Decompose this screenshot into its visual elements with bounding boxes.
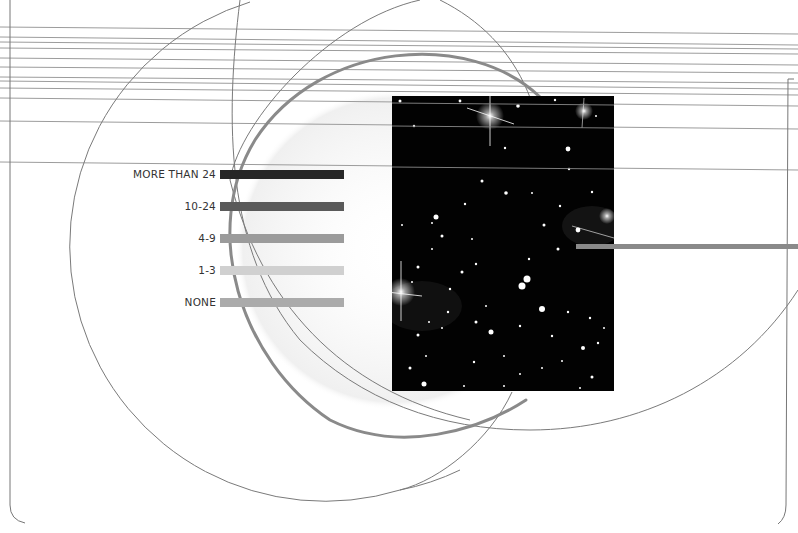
right-frame-line bbox=[778, 79, 794, 524]
bright-star bbox=[575, 98, 593, 128]
left-frame-line bbox=[10, 0, 25, 523]
bright-star bbox=[562, 206, 614, 246]
bright-star bbox=[392, 261, 462, 331]
pointer-bar bbox=[576, 244, 798, 249]
star-dots bbox=[399, 99, 606, 389]
